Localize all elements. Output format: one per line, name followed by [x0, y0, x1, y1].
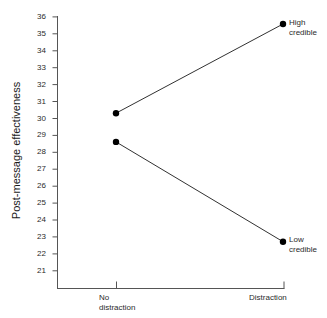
series-line-high-credible: [116, 24, 283, 113]
data-point-high-credible-no-distraction: [113, 110, 119, 116]
data-point-low-credible-distraction: [280, 239, 286, 245]
line-chart: Post-message effectiveness 36 35 34 33 3…: [0, 0, 327, 318]
y-tick-label: 25: [28, 199, 46, 207]
y-tick-label: 29: [28, 131, 46, 139]
series-label-high-credible: High credible: [289, 18, 317, 37]
series-line-low-credible: [116, 142, 283, 242]
y-axis-title: Post-message effectiveness: [11, 41, 22, 261]
x-tick-label-distraction: Distraction: [249, 293, 287, 303]
y-tick-label: 35: [28, 30, 46, 38]
x-tick-label-line: No: [99, 293, 135, 303]
series-label-line: credible: [289, 28, 317, 38]
y-tick-label: 24: [28, 216, 46, 224]
y-tick-label: 33: [28, 64, 46, 72]
x-tick-label-no-distraction: No distraction: [99, 293, 135, 313]
data-point-low-credible-no-distraction: [113, 139, 119, 145]
series-label-line: High: [289, 18, 317, 28]
y-tick-label: 32: [28, 81, 46, 89]
y-tick-label: 26: [28, 182, 46, 190]
y-tick-label: 28: [28, 148, 46, 156]
series-label-line: Low: [289, 235, 317, 245]
y-tick-label: 22: [28, 250, 46, 258]
y-tick-label: 34: [28, 47, 46, 55]
series-label-low-credible: Low credible: [289, 235, 317, 254]
y-tick-label: 23: [28, 233, 46, 241]
y-tick-label: 31: [28, 98, 46, 106]
y-tick-label: 27: [28, 165, 46, 173]
x-tick-label-line: distraction: [99, 303, 135, 313]
y-tick-label: 36: [28, 13, 46, 21]
plot-area: [0, 0, 327, 318]
x-tick-label-line: Distraction: [249, 293, 287, 303]
y-tick-marks: [53, 17, 58, 271]
data-point-high-credible-distraction: [280, 21, 286, 27]
y-tick-label: 30: [28, 115, 46, 123]
x-tick-marks: [117, 282, 285, 289]
y-tick-label: 21: [28, 267, 46, 275]
series-label-line: credible: [289, 245, 317, 255]
